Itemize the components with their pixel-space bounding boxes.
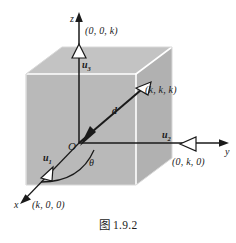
axis-label-x: x	[14, 200, 18, 210]
z-endpoint-label: (0, 0, k)	[85, 26, 118, 36]
axis-label-z: z	[70, 14, 74, 24]
theta-label: θ	[89, 158, 94, 168]
origin-label: O	[68, 141, 76, 152]
figure-caption: 图 1.9.2	[0, 216, 236, 232]
y-endpoint-label: (0, k, 0)	[172, 157, 205, 167]
corner-point-label: (k, k, k)	[145, 85, 177, 95]
u2-label: u2	[162, 130, 171, 143]
u2-unit-marker	[180, 137, 196, 151]
figure-container: z (0, 0, k) u3 (k, k, k) d u2 y (0, k, 0…	[0, 0, 236, 243]
u3-label: u3	[82, 60, 91, 73]
axis-label-y: y	[225, 147, 229, 157]
u1-label: u1	[43, 153, 52, 166]
x-endpoint-label: (k, 0, 0)	[32, 200, 65, 210]
diagonal-vector-label: d	[112, 106, 117, 116]
